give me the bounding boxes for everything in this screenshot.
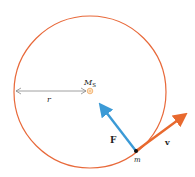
force-label: F	[110, 135, 117, 145]
sun-label: MS	[83, 78, 96, 88]
mass-point	[134, 149, 138, 153]
mass-label: m	[134, 156, 141, 164]
force-arrow	[106, 112, 136, 151]
velocity-arrow	[136, 120, 178, 151]
velocity-label: v	[164, 137, 170, 147]
radius-arrow	[16, 88, 86, 94]
sun-icon	[87, 88, 93, 94]
radius-label: r	[47, 95, 52, 104]
orbit-diagram: r MS F v m	[0, 0, 195, 177]
